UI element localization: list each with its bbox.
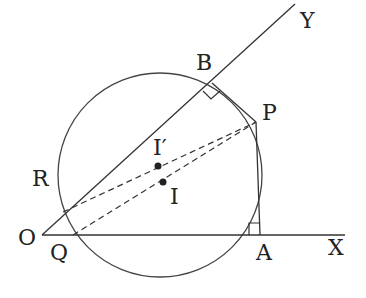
label-x: X <box>328 235 344 260</box>
ray-oy <box>42 4 295 235</box>
label-r: R <box>32 166 50 191</box>
label-i-prime: I′ <box>153 135 167 160</box>
point-i-prime <box>155 163 162 170</box>
label-p: P <box>262 100 277 125</box>
right-angle-mark-a <box>249 223 260 235</box>
geometry-diagram: O Q A X R B Y P I′ I <box>0 0 366 298</box>
label-y: Y <box>299 8 315 33</box>
right-angle-mark-b <box>203 91 220 99</box>
circle <box>58 73 262 277</box>
label-o: O <box>18 225 36 250</box>
point-i <box>160 179 167 186</box>
label-b: B <box>196 50 212 75</box>
segment-bp <box>212 83 256 122</box>
segment-pa <box>256 122 260 235</box>
label-i: I <box>170 184 179 209</box>
label-q: Q <box>50 240 68 265</box>
label-a: A <box>255 240 273 265</box>
